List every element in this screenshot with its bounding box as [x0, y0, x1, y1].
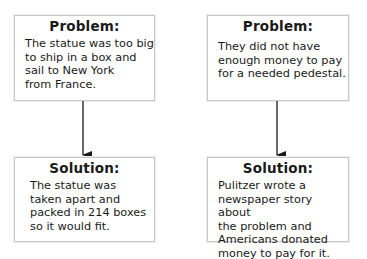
solution-title-2: Solution:	[208, 161, 348, 176]
solution-box-1: Solution: The statue was taken apart and…	[14, 157, 155, 242]
solution-text-1: The statue was taken apart and packed in…	[15, 176, 154, 233]
solution-box-2: Solution: Pulitzer wrote a newspaper sto…	[207, 157, 349, 242]
solution-text-2: Pulitzer wrote a newspaper story about t…	[208, 176, 348, 259]
solution-title-1: Solution:	[15, 161, 154, 176]
